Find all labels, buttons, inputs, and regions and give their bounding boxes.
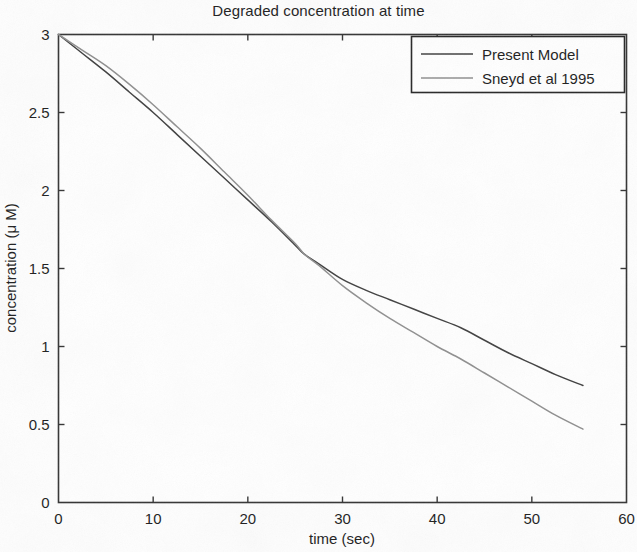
y-tick-label: 0: [41, 494, 49, 511]
x-tick-label: 60: [618, 510, 635, 527]
x-tick-label: 20: [239, 510, 256, 527]
y-tick-label: 2.5: [29, 104, 50, 121]
y-tick-label: 1.5: [29, 260, 50, 277]
x-tick-label: 0: [54, 510, 62, 527]
legend[interactable]: Present ModelSneyd et al 1995: [412, 37, 625, 93]
y-axis-tick-labels: 00.511.522.53: [29, 26, 50, 511]
x-tick-label: 10: [145, 510, 162, 527]
x-axis-title: time (sec): [309, 530, 375, 547]
legend-label-1: Sneyd et al 1995: [482, 70, 595, 87]
y-tick-label: 2: [41, 182, 49, 199]
y-tick-label: 0.5: [29, 416, 50, 433]
x-tick-label: 50: [523, 510, 540, 527]
y-axis-title: concentration (μ M): [2, 203, 19, 333]
legend-label-0: Present Model: [482, 46, 579, 63]
x-axis-tick-labels: 0102030405060: [54, 510, 635, 527]
figure-canvas: Degraded concentration at time 010203040…: [0, 0, 637, 552]
x-tick-label: 30: [334, 510, 351, 527]
y-tick-label: 3: [41, 26, 49, 43]
plot-area: 0102030405060 00.511.522.53 time (sec) c…: [0, 0, 637, 552]
x-tick-label: 40: [429, 510, 446, 527]
y-tick-label: 1: [41, 338, 49, 355]
